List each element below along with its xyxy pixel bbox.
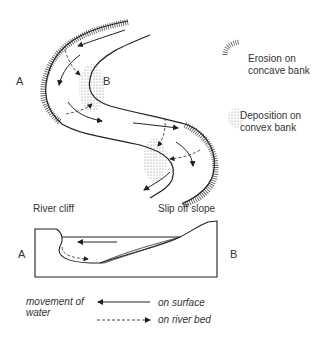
erosion-bank-lower xyxy=(182,125,215,205)
legend-surface: on surface xyxy=(158,297,205,309)
river-cliff-label: River cliff xyxy=(33,203,74,215)
label-a-section: A xyxy=(18,248,25,260)
erosion-line1: Erosion on xyxy=(248,53,296,65)
slip-off-slope-label: Slip off slope xyxy=(158,203,215,215)
cross-section xyxy=(35,221,217,277)
erosion-line2: concave bank xyxy=(248,65,310,77)
erosion-hatch-icon xyxy=(225,42,240,55)
deposition-lower xyxy=(143,138,167,182)
label-a-plan: A xyxy=(16,75,23,87)
deposition-line2: convex bank xyxy=(240,122,296,134)
legend-title-line2: water xyxy=(26,307,50,319)
label-b-section: B xyxy=(230,248,237,260)
legend-river-bed: on river bed xyxy=(158,314,211,326)
label-b-plan: B xyxy=(103,75,110,87)
deposition-line1: Deposition on xyxy=(240,110,301,122)
